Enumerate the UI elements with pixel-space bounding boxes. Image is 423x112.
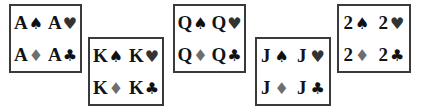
card-row: A ♦ A ♣ — [11, 39, 80, 72]
card-row: 2 ♦ 2 ♣ — [339, 39, 409, 72]
card-rank: J — [261, 78, 271, 97]
card-rank: Q — [177, 13, 192, 32]
card-row: J ♠ J ♥ — [257, 39, 329, 72]
card-rank: A — [48, 13, 62, 32]
card-rank: Q — [177, 45, 192, 64]
card-row: Q ♠ Q ♥ — [175, 6, 244, 39]
card-cell: J ♠ — [257, 46, 293, 65]
card-cell: J ♥ — [293, 46, 329, 65]
diamond-icon: ♦ — [275, 81, 289, 97]
card-cell: K ♠ — [90, 46, 126, 65]
card-rank: J — [297, 46, 307, 65]
card-row: K ♦ K ♣ — [90, 72, 162, 105]
card-cell: A ♣ — [46, 45, 80, 64]
spade-icon: ♠ — [275, 49, 289, 65]
card-cell: A ♥ — [46, 13, 80, 32]
club-icon: ♣ — [311, 81, 325, 97]
card-rank: K — [129, 78, 144, 97]
card-cell: K ♦ — [90, 78, 126, 97]
diamond-icon: ♦ — [29, 48, 43, 64]
card-cell: Q ♠ — [176, 13, 210, 32]
club-icon: ♣ — [145, 81, 159, 97]
card-cell: K ♣ — [126, 78, 162, 97]
card-cell: J ♦ — [257, 78, 293, 97]
card-rank: 2 — [344, 13, 354, 32]
card-rank: 2 — [379, 13, 389, 32]
card-group-kings: K ♠ K ♥ K ♦ K ♣ — [88, 37, 164, 106]
card-row: J ♦ J ♣ — [257, 72, 329, 105]
card-cell: 2 ♠ — [339, 13, 374, 32]
card-group-jacks: J ♠ J ♥ J ♦ J ♣ — [255, 37, 331, 106]
diamond-icon: ♦ — [355, 48, 369, 64]
card-group-aces: A ♠ A ♥ A ♦ A ♣ — [9, 4, 82, 73]
card-rank: K — [129, 46, 144, 65]
spade-icon: ♠ — [29, 16, 43, 32]
card-rank: J — [261, 46, 271, 65]
diamond-icon: ♦ — [193, 48, 207, 64]
card-rank: A — [14, 13, 28, 32]
card-cell: 2 ♣ — [374, 45, 409, 64]
card-cell: A ♠ — [12, 13, 46, 32]
spade-icon: ♠ — [109, 49, 123, 65]
card-rank: K — [93, 78, 108, 97]
club-icon: ♣ — [63, 48, 77, 64]
club-icon: ♣ — [227, 48, 241, 64]
club-icon: ♣ — [390, 48, 404, 64]
card-row: 2 ♠ 2 ♥ — [339, 6, 409, 39]
card-cell: Q ♦ — [176, 45, 210, 64]
card-rank: J — [297, 78, 307, 97]
card-group-queens: Q ♠ Q ♥ Q ♦ Q ♣ — [173, 4, 246, 73]
diamond-icon: ♦ — [109, 81, 123, 97]
card-cell: 2 ♦ — [339, 45, 374, 64]
card-row: K ♠ K ♥ — [90, 39, 162, 72]
heart-icon: ♥ — [145, 49, 159, 65]
card-group-twos: 2 ♠ 2 ♥ 2 ♦ 2 ♣ — [337, 4, 411, 73]
card-rank: 2 — [379, 45, 389, 64]
card-rank: Q — [211, 45, 226, 64]
card-rank: 2 — [344, 45, 354, 64]
card-rank: A — [48, 45, 62, 64]
card-cell: K ♥ — [126, 46, 162, 65]
card-row: Q ♦ Q ♣ — [175, 39, 244, 72]
heart-icon: ♥ — [63, 16, 77, 32]
card-cell: Q ♥ — [210, 13, 244, 32]
card-cell: A ♦ — [12, 45, 46, 64]
card-cell: Q ♣ — [210, 45, 244, 64]
card-cell: 2 ♥ — [374, 13, 409, 32]
card-rank: K — [93, 46, 108, 65]
card-cell: J ♣ — [293, 78, 329, 97]
heart-icon: ♥ — [227, 16, 241, 32]
spade-icon: ♠ — [193, 16, 207, 32]
card-rank: A — [14, 45, 28, 64]
heart-icon: ♥ — [311, 49, 325, 65]
card-rank: Q — [211, 13, 226, 32]
heart-icon: ♥ — [390, 16, 404, 32]
spade-icon: ♠ — [355, 16, 369, 32]
card-row: A ♠ A ♥ — [11, 6, 80, 39]
